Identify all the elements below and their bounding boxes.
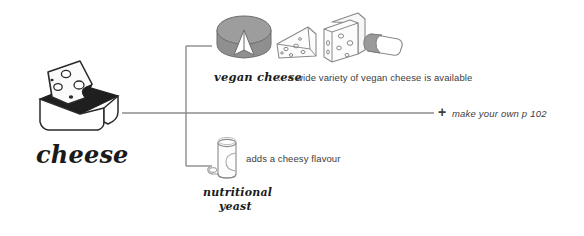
branch-label-nutritional-yeast-line2: yeast: [219, 200, 252, 213]
cheese-log-icon: [362, 30, 404, 60]
branch-separator-vegan-cheese: :: [278, 72, 281, 83]
cheese-wedge-icon: [274, 22, 320, 64]
yeast-jar-icon: [206, 134, 250, 182]
cheese-block-icon: [320, 10, 368, 64]
branch-label-nutritional-yeast-line1: nutritional: [203, 186, 272, 199]
make-your-own-note: make your own p 102: [452, 108, 547, 119]
cheese-infographic: cheese: [0, 0, 584, 236]
branch-description-vegan-cheese: a wide variety of vegan cheese is availa…: [288, 72, 472, 83]
page-title: cheese: [36, 140, 129, 169]
cheese-wheel-icon: [214, 8, 274, 64]
branch-description-nutritional-yeast: adds a cheesy flavour: [246, 153, 341, 164]
plus-icon: +: [438, 105, 446, 119]
cheese-box-icon: [22, 54, 132, 138]
